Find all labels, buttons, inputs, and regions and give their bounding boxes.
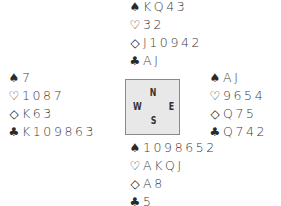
heart-icon: ♡	[129, 157, 141, 175]
west-clubs: K109863	[22, 123, 96, 141]
east-diamonds: Q75	[223, 105, 257, 123]
spade-icon: ♠	[129, 139, 141, 157]
south-spades: 1098652	[143, 139, 217, 157]
south-hearts: AKQJ	[143, 157, 184, 175]
heart-icon: ♡	[8, 87, 20, 105]
diamond-icon: ◇	[129, 175, 141, 193]
heart-icon: ♡	[209, 87, 221, 105]
north-hearts: 32	[143, 16, 164, 34]
spade-icon: ♠	[8, 69, 20, 87]
south-diamonds: A8	[143, 175, 165, 193]
club-icon: ♣	[129, 193, 141, 206]
north-clubs: AJ	[143, 52, 160, 70]
north-diamonds: J10942	[143, 34, 202, 52]
spade-icon: ♠	[129, 0, 141, 16]
north-spades: KQ43	[143, 0, 187, 16]
east-clubs: Q742	[223, 123, 267, 141]
diamond-icon: ◇	[209, 105, 221, 123]
east-hearts: 9654	[223, 87, 265, 105]
compass-west-label: W	[133, 100, 142, 113]
heart-icon: ♡	[129, 16, 141, 34]
spade-icon: ♠	[209, 69, 221, 87]
west-hearts: 1087	[22, 87, 64, 105]
diamond-icon: ◇	[129, 34, 141, 52]
club-icon: ♣	[8, 123, 20, 141]
compass-north-label: N	[150, 86, 157, 99]
club-icon: ♣	[129, 52, 141, 70]
diamond-icon: ◇	[8, 105, 20, 123]
east-spades: AJ	[223, 69, 240, 87]
compass-east-label: E	[169, 100, 174, 113]
west-diamonds: K63	[22, 105, 54, 123]
west-spades: 7	[22, 69, 33, 87]
south-clubs: 5	[143, 193, 154, 206]
compass-box: N W E S	[125, 79, 180, 135]
compass-south-label: S	[151, 114, 157, 127]
